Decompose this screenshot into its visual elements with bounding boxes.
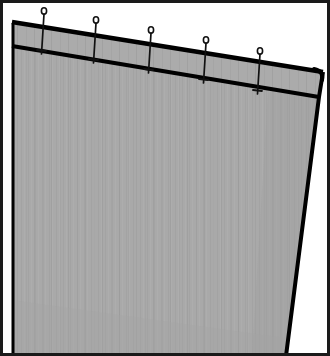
hook-crossbar [89,59,98,60]
figure-container: Line drawing of a gray pleated curtain p… [0,0,330,356]
hook-crossbar [253,90,262,91]
hook-crossbar [144,69,153,70]
hook-crossbar [37,50,46,51]
curtain-panel [12,22,323,356]
curtain-illustration [0,0,330,356]
hook-crossbar [199,79,208,80]
